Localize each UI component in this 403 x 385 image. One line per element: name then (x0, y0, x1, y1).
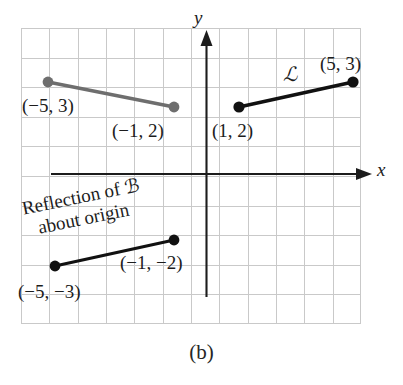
point-label-neg1-2: (−1, 2) (112, 121, 164, 140)
point-label-neg1-neg2: (−1, −2) (120, 253, 183, 272)
figure-caption: (b) (0, 340, 403, 365)
point-label-5-3: (5, 3) (320, 54, 361, 73)
point-label-1-2: (1, 2) (212, 121, 253, 140)
point-label-neg5-neg3: (−5, −3) (18, 282, 81, 301)
x-axis-label: x (377, 160, 385, 179)
line-L-label: ℒ (283, 64, 297, 84)
point-label-neg5-3: (−5, 3) (22, 96, 74, 115)
y-axis-label: y (194, 8, 202, 27)
figure-panel-b: (−5, 3) (−1, 2) (1, 2) (5, 3) (−1, −2) (… (0, 0, 403, 385)
